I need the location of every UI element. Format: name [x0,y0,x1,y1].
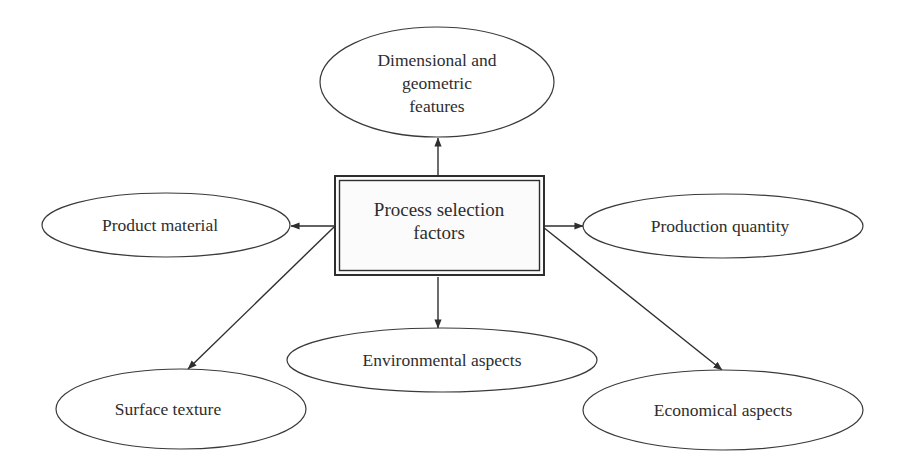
label-surface-texture: Surface texture [115,399,222,419]
label-dimensional-line-1: Dimensional and [377,50,496,70]
node-product-material: Product material [42,193,290,257]
node-environmental: Environmental aspects [287,328,597,392]
label-center-line-1: Process selection [374,199,505,220]
node-economical: Economical aspects [583,370,863,450]
node-surface-texture: Surface texture [56,369,306,449]
node-dimensional: Dimensional and geometric features [320,27,554,137]
node-center: Process selection factors [335,176,544,275]
label-product-material: Product material [102,215,218,235]
label-environmental: Environmental aspects [363,350,522,370]
node-production-quantity: Production quantity [583,194,863,258]
label-dimensional-line-3: features [409,96,465,116]
process-selection-diagram: Dimensional and geometric features Produ… [0,0,900,470]
label-production-quantity: Production quantity [651,216,790,236]
label-economical: Economical aspects [654,400,793,420]
label-center-line-2: factors [413,222,465,243]
label-dimensional-line-2: geometric [402,73,472,93]
